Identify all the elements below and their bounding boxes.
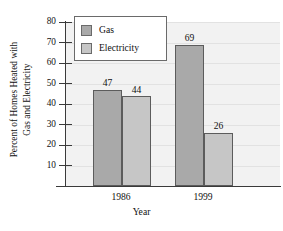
bar-gas-1999 (175, 45, 204, 187)
bar-value-electricity-1986: 44 (117, 85, 157, 95)
y-axis-title-line-2: Gas and Electricity (21, 42, 34, 158)
y-tick-label-60: 60 (36, 58, 56, 67)
bar-value-electricity-1999: 26 (199, 121, 239, 131)
y-tick-label-40: 40 (36, 99, 56, 108)
legend-label-electricity: Electricity (99, 43, 139, 53)
y-tick-mark-50 (59, 83, 72, 84)
gridline-60 (66, 63, 280, 64)
y-tick-mark-80 (59, 22, 72, 23)
bar-electricity-1999 (204, 133, 233, 186)
y-tick-label-30: 30 (36, 120, 56, 129)
y-tick-mark-30 (59, 124, 72, 125)
y-tick-mark-40 (59, 104, 72, 105)
y-tick-mark-20 (59, 145, 72, 146)
y-axis-title-line-1: Percent of Homes Heated with (8, 42, 21, 158)
x-tick-label-1986: 1986 (86, 192, 156, 202)
bar-gas-1986 (93, 90, 122, 186)
y-tick-label-50: 50 (36, 79, 56, 88)
x-axis-line (56, 186, 281, 187)
legend-swatch-gas-icon (81, 25, 92, 36)
y-tick-label-10: 10 (36, 161, 56, 170)
legend-label-gas: Gas (99, 25, 114, 35)
bar-chart-figure: Percent of Homes Heated with Gas and Ele… (0, 0, 283, 231)
chart-legend: Gas Electricity (74, 16, 167, 61)
y-tick-label-80: 80 (36, 17, 56, 26)
legend-item-electricity: Electricity (81, 39, 166, 57)
y-tick-mark-60 (59, 63, 72, 64)
y-tick-mark-10 (59, 165, 72, 166)
bar-value-gas-1999: 69 (170, 33, 210, 43)
legend-item-gas: Gas (81, 21, 166, 39)
x-axis-title: Year (0, 207, 283, 217)
bar-electricity-1986 (122, 96, 151, 186)
y-tick-mark-70 (59, 42, 72, 43)
legend-swatch-electricity-icon (81, 43, 92, 54)
x-tick-label-1999: 1999 (168, 192, 238, 202)
y-tick-label-70: 70 (36, 38, 56, 47)
y-tick-label-20: 20 (36, 140, 56, 149)
